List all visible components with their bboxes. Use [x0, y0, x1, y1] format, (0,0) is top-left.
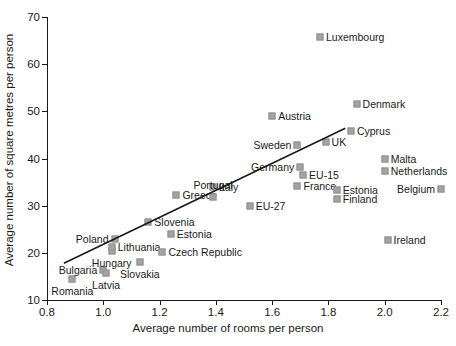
- data-point-label: France: [303, 180, 336, 192]
- x-tick-label: 2.0: [377, 306, 393, 318]
- data-point-label: Czech Republic: [168, 246, 242, 258]
- data-point-netherlands[interactable]: [381, 168, 388, 175]
- data-point-label: Finland: [343, 193, 377, 205]
- data-point-label: Sweden: [254, 139, 292, 151]
- data-point-portugal[interactable]: [210, 193, 217, 200]
- y-tick-label: 60: [27, 58, 40, 70]
- data-point-latvia[interactable]: [103, 269, 110, 276]
- data-point-label: Ireland: [394, 234, 426, 246]
- data-point-label: UK: [332, 136, 347, 148]
- data-point-ireland[interactable]: [384, 236, 391, 243]
- x-axis-title: Average number of rooms per person: [0, 322, 456, 334]
- data-point-austria[interactable]: [269, 113, 276, 120]
- x-tick-label: 1.8: [320, 306, 336, 318]
- data-point-sweden[interactable]: [294, 142, 301, 149]
- x-tick-label: 1.4: [208, 306, 224, 318]
- data-point-belgium[interactable]: [438, 186, 445, 193]
- data-point-estonia[interactable]: [167, 230, 174, 237]
- data-point-uk[interactable]: [322, 139, 329, 146]
- x-tick: [103, 300, 104, 305]
- data-point-cyprus[interactable]: [347, 128, 354, 135]
- data-point-label: EU-27: [256, 200, 286, 212]
- data-point-estonia-2[interactable]: [333, 186, 340, 193]
- data-point-label: Germany: [251, 161, 294, 173]
- data-point-label: Malta: [391, 153, 417, 165]
- data-point-luxembourg[interactable]: [316, 33, 323, 40]
- data-point-romania[interactable]: [69, 275, 76, 282]
- x-tick-label: 1.0: [95, 306, 111, 318]
- x-tick: [441, 300, 442, 305]
- x-axis-title-text: Average number of rooms per person: [133, 322, 324, 334]
- y-axis-title: Average number of square metres per pers…: [2, 0, 16, 300]
- data-point-label: Slovakia: [120, 268, 160, 280]
- data-point-label: Estonia: [177, 228, 212, 240]
- data-point-lithuania[interactable]: [108, 244, 115, 251]
- data-point-czech-republic[interactable]: [159, 249, 166, 256]
- y-tick: [42, 206, 47, 207]
- y-tick: [42, 17, 47, 18]
- y-tick-label: 20: [27, 247, 40, 259]
- y-tick: [42, 64, 47, 65]
- plot-area: 10203040506070 0.81.01.21.41.61.82.02.2 …: [47, 17, 441, 300]
- x-tick: [216, 300, 217, 305]
- x-axis-line: [47, 300, 442, 301]
- y-axis-title-text: Average number of square metres per pers…: [3, 34, 15, 266]
- y-tick: [42, 159, 47, 160]
- data-point-label: Belgium: [397, 183, 435, 195]
- y-tick-label: 30: [27, 200, 40, 212]
- x-tick: [272, 300, 273, 305]
- data-point-germany[interactable]: [297, 163, 304, 170]
- data-point-denmark[interactable]: [353, 101, 360, 108]
- y-tick: [42, 253, 47, 254]
- data-point-slovenia[interactable]: [145, 219, 152, 226]
- data-point-finland[interactable]: [333, 195, 340, 202]
- x-tick: [328, 300, 329, 305]
- y-tick-label: 70: [27, 11, 40, 23]
- x-tick-label: 2.2: [433, 306, 449, 318]
- x-tick: [385, 300, 386, 305]
- data-point-slovakia[interactable]: [136, 258, 143, 265]
- y-tick: [42, 111, 47, 112]
- data-point-france[interactable]: [294, 182, 301, 189]
- data-point-poland[interactable]: [111, 235, 118, 242]
- y-tick-label: 40: [27, 153, 40, 165]
- x-tick: [160, 300, 161, 305]
- data-point-malta[interactable]: [381, 156, 388, 163]
- y-tick-label: 50: [27, 105, 40, 117]
- x-tick-label: 0.8: [39, 306, 55, 318]
- x-tick-label: 1.6: [264, 306, 280, 318]
- data-point-label: Latvia: [92, 279, 120, 291]
- data-point-label: Netherlands: [391, 165, 448, 177]
- data-point-label: Romania: [51, 285, 93, 297]
- data-point-greece[interactable]: [173, 191, 180, 198]
- y-tick-label: 10: [27, 294, 40, 306]
- data-point-label: Luxembourg: [326, 31, 384, 43]
- data-point-label: Denmark: [363, 98, 406, 110]
- scatter-chart-figure: Average number of square metres per pers…: [0, 0, 456, 346]
- data-point-eu-27[interactable]: [246, 202, 253, 209]
- data-point-label: Lithuania: [118, 241, 161, 253]
- x-tick-label: 1.2: [152, 306, 168, 318]
- data-point-label: Poland: [76, 233, 109, 245]
- data-point-label: Cyprus: [357, 125, 390, 137]
- data-point-eu-15[interactable]: [300, 172, 307, 179]
- data-point-label: Slovenia: [154, 216, 194, 228]
- x-tick: [47, 300, 48, 305]
- data-point-label: Portugal: [193, 179, 232, 191]
- data-point-label: Austria: [278, 110, 311, 122]
- y-axis-line: [47, 17, 48, 300]
